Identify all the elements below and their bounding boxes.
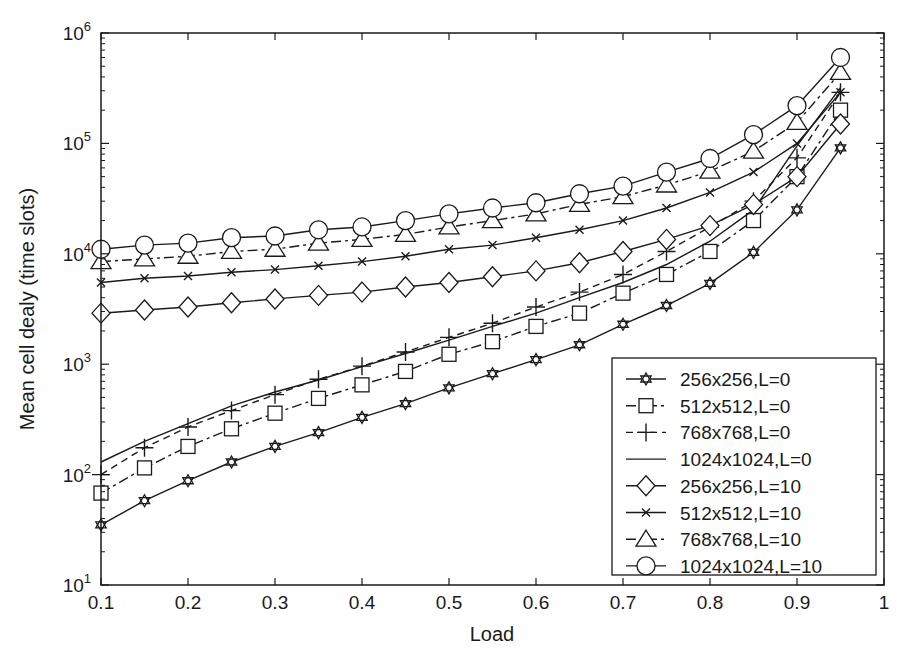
circle-marker-icon xyxy=(179,234,197,252)
diamond-marker-icon xyxy=(179,297,197,317)
diamond-marker-icon xyxy=(310,285,328,305)
x-tick-label: 0.8 xyxy=(697,592,723,613)
square-marker-icon xyxy=(399,364,413,378)
triangle-marker-icon xyxy=(787,113,807,129)
circle-marker-icon xyxy=(527,194,545,212)
circle-marker-icon xyxy=(571,185,589,203)
circle-marker-icon xyxy=(310,221,328,239)
series-line xyxy=(101,124,841,313)
square-marker-icon xyxy=(747,214,761,228)
square-marker-icon xyxy=(442,347,456,361)
diamond-marker-icon xyxy=(136,300,154,320)
square-marker-icon xyxy=(486,335,500,349)
diamond-marker-icon xyxy=(440,272,458,292)
diamond-marker-icon xyxy=(397,277,415,297)
x-marker-icon xyxy=(706,188,714,196)
series-256x256-l-10 xyxy=(92,114,850,323)
square-marker-icon xyxy=(225,422,239,436)
series-512x512-l-10 xyxy=(97,88,845,286)
series-768x768-l-10 xyxy=(91,63,851,268)
diamond-marker-icon xyxy=(223,293,241,313)
x-tick-label: 0.3 xyxy=(262,592,288,613)
x-axis-label: Load xyxy=(470,623,515,645)
legend: 256x256,L=0512x512,L=0768x768,L=01024x10… xyxy=(612,358,876,577)
circle-marker-icon xyxy=(745,126,763,144)
legend-label: 1024x1024,L=0 xyxy=(680,449,812,470)
square-marker-icon xyxy=(573,306,587,320)
y-axis-label: Mean cell dealy (time slots) xyxy=(16,188,38,430)
square-marker-icon xyxy=(138,461,152,475)
legend-label: 1024x1024,L=10 xyxy=(680,556,822,577)
circle-marker-icon xyxy=(397,212,415,230)
square-marker-icon xyxy=(355,378,369,392)
legend-label: 512x512,L=0 xyxy=(680,396,790,417)
y-tick-label: 104 xyxy=(63,240,91,265)
diamond-marker-icon xyxy=(484,267,502,287)
series-line xyxy=(101,58,841,250)
circle-marker-icon xyxy=(637,557,655,575)
circle-marker-icon xyxy=(266,227,284,245)
y-tick-label: 103 xyxy=(63,350,91,375)
diamond-marker-icon xyxy=(571,253,589,273)
x-tick-label: 0.1 xyxy=(88,592,114,613)
x-marker-icon xyxy=(750,168,758,176)
legend-label: 512x512,L=10 xyxy=(680,503,801,524)
plus-marker-icon xyxy=(484,314,502,332)
x-tick-label: 0.9 xyxy=(784,592,810,613)
diamond-marker-icon xyxy=(614,241,632,261)
circle-marker-icon xyxy=(701,149,719,167)
series-1024x1024-l-10 xyxy=(92,48,850,258)
x-tick-label: 0.2 xyxy=(175,592,201,613)
circle-marker-icon xyxy=(614,177,632,195)
diamond-marker-icon xyxy=(353,282,371,302)
x-tick-label: 0.6 xyxy=(523,592,549,613)
legend-label: 256x256,L=10 xyxy=(680,476,801,497)
circle-marker-icon xyxy=(353,218,371,236)
diamond-marker-icon xyxy=(701,216,719,236)
circle-marker-icon xyxy=(440,205,458,223)
square-marker-icon xyxy=(660,267,674,281)
circle-marker-icon xyxy=(832,48,850,66)
y-tick-label: 105 xyxy=(63,129,91,154)
y-tick-label: 101 xyxy=(63,571,91,596)
circle-marker-icon xyxy=(136,236,154,254)
square-marker-icon xyxy=(312,391,326,405)
square-marker-icon xyxy=(616,286,630,300)
x-tick-label: 0.4 xyxy=(349,592,376,613)
legend-label: 768x768,L=0 xyxy=(680,422,790,443)
series-line xyxy=(101,72,841,261)
square-marker-icon xyxy=(639,399,653,413)
diamond-marker-icon xyxy=(658,229,676,249)
circle-marker-icon xyxy=(223,229,241,247)
y-tick-label: 106 xyxy=(63,19,91,44)
legend-label: 256x256,L=0 xyxy=(680,369,790,390)
square-marker-icon xyxy=(529,319,543,333)
diamond-marker-icon xyxy=(745,194,763,214)
y-tick-label: 102 xyxy=(63,461,91,486)
diamond-marker-icon xyxy=(266,289,284,309)
circle-marker-icon xyxy=(484,199,502,217)
square-marker-icon xyxy=(268,406,282,420)
x-tick-label: 1 xyxy=(879,592,890,613)
x-tick-label: 0.5 xyxy=(436,592,462,613)
plus-marker-icon xyxy=(440,328,458,346)
chart: 0.10.20.30.40.50.60.70.80.91 10110210310… xyxy=(0,0,903,664)
legend-label: 768x768,L=10 xyxy=(680,529,801,550)
x-tick-label: 0.7 xyxy=(610,592,636,613)
x-marker-icon xyxy=(663,204,671,212)
square-marker-icon xyxy=(703,244,717,258)
plus-marker-icon xyxy=(614,265,632,283)
square-marker-icon xyxy=(181,439,195,453)
triangle-marker-icon xyxy=(744,142,764,158)
circle-marker-icon xyxy=(788,97,806,115)
diamond-marker-icon xyxy=(527,261,545,281)
circle-marker-icon xyxy=(658,163,676,181)
